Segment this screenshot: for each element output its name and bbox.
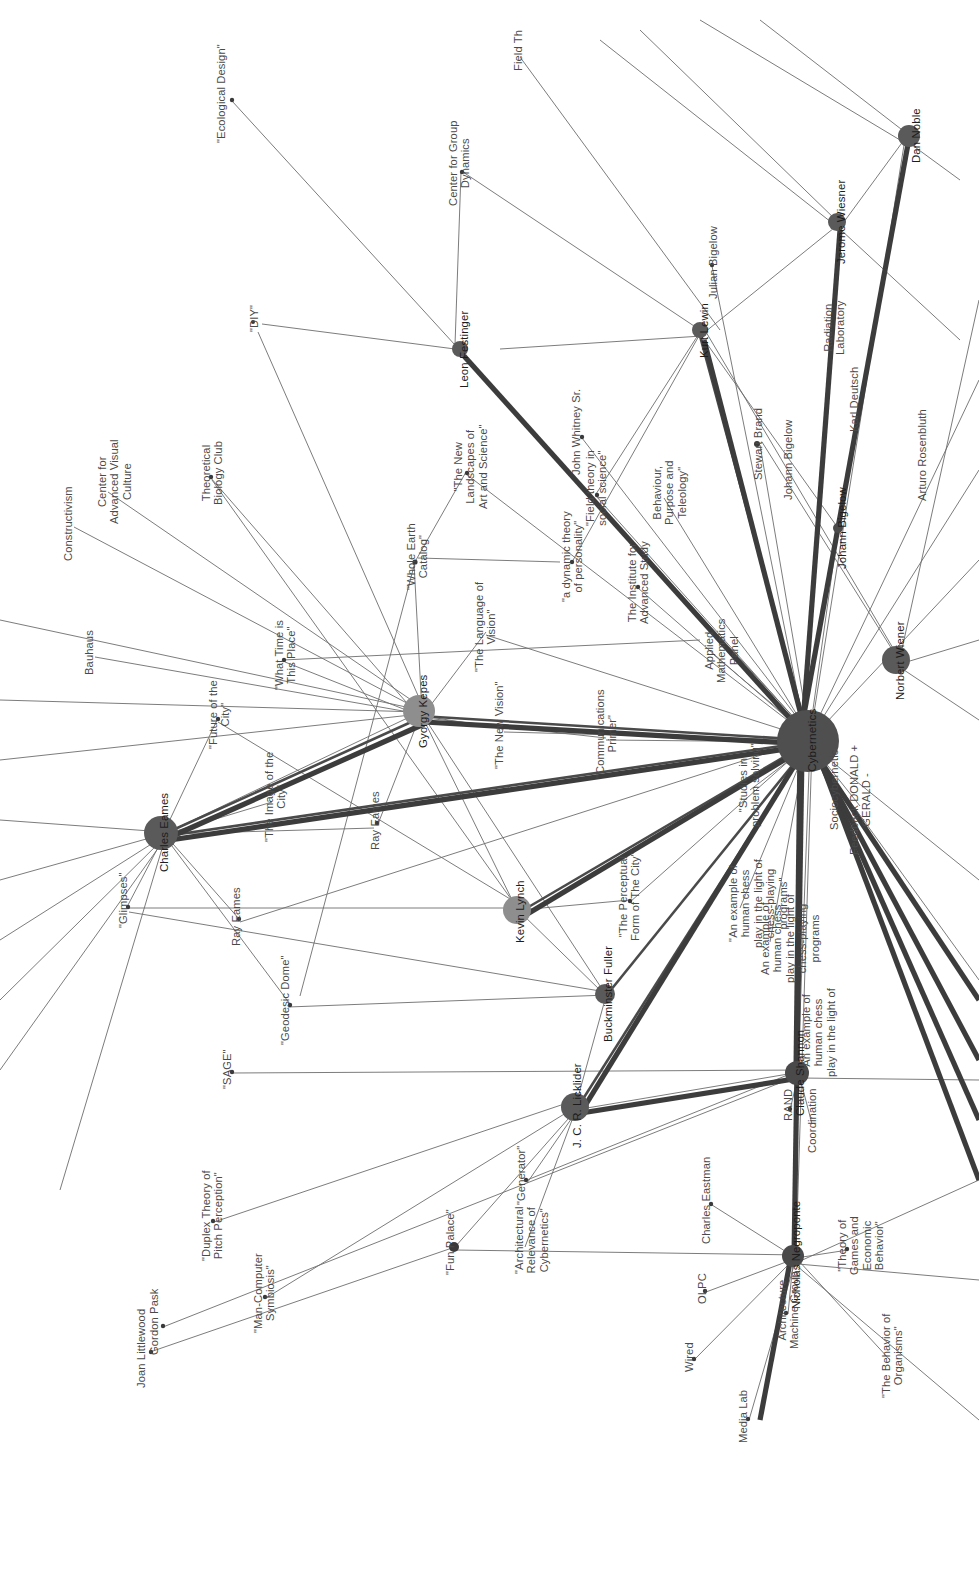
node-charles-eames[interactable] [144, 816, 178, 850]
leaf-dot-julian-bigelow[interactable] [710, 263, 714, 267]
leaf-dot-glimpses[interactable] [126, 905, 130, 909]
node-jerome-wiesner[interactable] [828, 213, 846, 231]
leaf-dot-field-theory-social-science[interactable] [595, 493, 599, 497]
node-johann-bigelow[interactable] [833, 523, 843, 533]
leaf-dot-wired[interactable] [692, 1357, 696, 1361]
leaf-dot-john-whitney[interactable] [580, 435, 584, 439]
leaf-dot-joan-littlewood[interactable] [149, 1350, 153, 1354]
leaf-dot-architecture-machine-group[interactable] [784, 1311, 788, 1315]
leaf-dot-olpc[interactable] [703, 1289, 707, 1293]
node-leon-festinger[interactable] [452, 341, 468, 357]
leaf-dot-gordon-pask[interactable] [161, 1324, 165, 1328]
leaf-dot-what-time-is-this-place[interactable] [282, 658, 286, 662]
leaf-dot-perceptual-form-city[interactable] [628, 899, 632, 903]
leaf-dot-dynamic-theory-personality[interactable] [570, 560, 574, 564]
leaf-dot-new-landscapes[interactable] [465, 471, 469, 475]
leaf-dot-ecological-design[interactable] [230, 98, 234, 102]
node-jcr-licklider[interactable] [561, 1093, 589, 1121]
leaf-dot-stewart-brand[interactable] [754, 441, 760, 447]
leaf-dot-duplex-theory[interactable] [211, 1219, 215, 1223]
node-nicholas-negroponte[interactable] [782, 1245, 804, 1267]
leaf-dot-rand[interactable] [788, 1107, 792, 1111]
leaf-dot-charles-eastman[interactable] [709, 1202, 713, 1206]
leaf-dot-theory-of-games[interactable] [845, 1247, 849, 1251]
node-norbert-wiener[interactable] [882, 646, 910, 674]
leaf-dot-media-lab[interactable] [746, 1417, 750, 1421]
leaf-dot-geodesic-dome[interactable] [288, 1003, 292, 1007]
node-kurt-lewin[interactable] [692, 322, 708, 338]
leaf-dot-future-of-the-city[interactable] [216, 717, 220, 721]
leaf-dot-diy[interactable] [251, 320, 255, 324]
leaf-dot-sage[interactable] [230, 1070, 234, 1074]
leaf-dot-fun-palace[interactable] [449, 1242, 459, 1252]
node-dan-noble[interactable] [898, 125, 920, 147]
leaf-dot-institute-advanced-study[interactable] [636, 585, 640, 589]
leaf-dot-man-computer-symbiosis[interactable] [263, 1295, 267, 1299]
node-kevin-lynch[interactable] [503, 896, 531, 924]
leaf-dot-theoretical-biology-club[interactable] [209, 475, 213, 479]
graph-edges-layer [0, 0, 979, 1596]
leaf-dot-ray-eames-right[interactable] [375, 821, 379, 825]
network-graph-canvas: CyberneticsGyorgy KepesCharles EamesKevi… [0, 0, 979, 1596]
leaf-dot-center-group-dynamics[interactable] [460, 170, 464, 174]
node-buckminster-fuller[interactable] [595, 984, 615, 1004]
node-claude-shannon[interactable] [785, 1061, 809, 1085]
node-gyorgy-kepes[interactable] [403, 695, 435, 727]
leaf-dot-whole-earth-catalog[interactable] [412, 559, 417, 564]
leaf-dot-ray-eames-left[interactable] [237, 917, 241, 921]
leaf-dot-generator[interactable] [524, 1178, 528, 1182]
node-cybernetics[interactable] [777, 710, 839, 772]
